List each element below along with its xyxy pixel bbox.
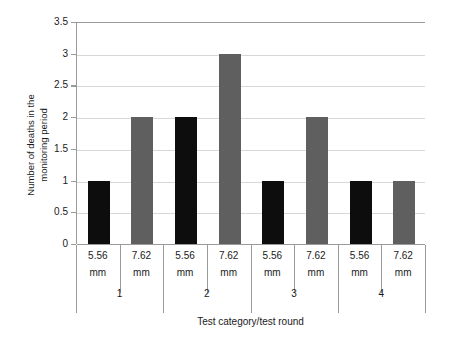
- caliber-value: 7.62: [132, 250, 151, 261]
- caliber-value: 7.62: [219, 250, 238, 261]
- caliber-value: 5.56: [350, 250, 369, 261]
- caliber-separator: [294, 245, 295, 293]
- caliber-unit: mm: [381, 264, 425, 281]
- x-axis-caliber-label: 7.62mm: [207, 245, 251, 285]
- bar: [350, 181, 372, 244]
- y-axis-tick-label: 3: [42, 49, 68, 59]
- bar: [219, 54, 241, 244]
- caliber-separator: [120, 245, 121, 293]
- x-axis-title: Test category/test round: [76, 316, 425, 328]
- gridline: [77, 55, 425, 56]
- caliber-unit: mm: [294, 264, 338, 281]
- category-separator: [163, 245, 164, 313]
- x-axis-caliber-label: 5.56mm: [251, 245, 295, 285]
- category-separator: [338, 245, 339, 313]
- y-axis-tick-label: 2: [42, 112, 68, 122]
- gridline: [77, 150, 425, 151]
- caliber-value: 7.62: [306, 250, 325, 261]
- y-axis-title-line1: Number of deaths in the: [25, 94, 36, 195]
- y-axis-tick-label: 0.5: [42, 207, 68, 217]
- caliber-separator: [381, 245, 382, 293]
- caliber-unit: mm: [338, 264, 382, 281]
- gridline: [77, 213, 425, 214]
- x-axis-round-label: 2: [163, 287, 250, 301]
- x-axis-round-label: 1: [76, 287, 163, 301]
- caliber-value: 5.56: [88, 250, 107, 261]
- caliber-unit: mm: [120, 264, 164, 281]
- bar: [306, 117, 328, 244]
- x-axis-caliber-label: 7.62mm: [120, 245, 164, 285]
- caliber-unit: mm: [163, 264, 207, 281]
- x-axis-caliber-label: 5.56mm: [163, 245, 207, 285]
- x-axis-caliber-label: 5.56mm: [338, 245, 382, 285]
- bar: [393, 181, 415, 244]
- bar: [88, 181, 110, 244]
- y-axis-tick-label: 3.5: [42, 17, 68, 27]
- caliber-value: 5.56: [175, 250, 194, 261]
- gridline: [77, 86, 425, 87]
- x-axis-caliber-label: 7.62mm: [294, 245, 338, 285]
- bar-chart: Number of deaths in the monitoring perio…: [0, 0, 450, 338]
- x-axis-caliber-label: 7.62mm: [381, 245, 425, 285]
- caliber-unit: mm: [207, 264, 251, 281]
- gridline: [77, 118, 425, 119]
- x-axis-round-label: 3: [251, 287, 338, 301]
- bar: [262, 181, 284, 244]
- y-axis-tick-label: 1: [42, 176, 68, 186]
- bar: [131, 117, 153, 244]
- y-axis-tick-label: 0: [42, 239, 68, 249]
- bar: [175, 117, 197, 244]
- caliber-unit: mm: [251, 264, 295, 281]
- category-separator: [76, 245, 77, 313]
- caliber-value: 5.56: [263, 250, 282, 261]
- plot-area: [76, 22, 425, 244]
- x-axis-round-label: 4: [338, 287, 425, 301]
- category-separator: [425, 245, 426, 313]
- category-separator: [251, 245, 252, 313]
- y-axis-tick-label: 2.5: [42, 80, 68, 90]
- caliber-unit: mm: [76, 264, 120, 281]
- gridline: [77, 182, 425, 183]
- caliber-separator: [207, 245, 208, 293]
- y-axis-tick-label: 1.5: [42, 144, 68, 154]
- x-axis-caliber-label: 5.56mm: [76, 245, 120, 285]
- caliber-value: 7.62: [393, 250, 412, 261]
